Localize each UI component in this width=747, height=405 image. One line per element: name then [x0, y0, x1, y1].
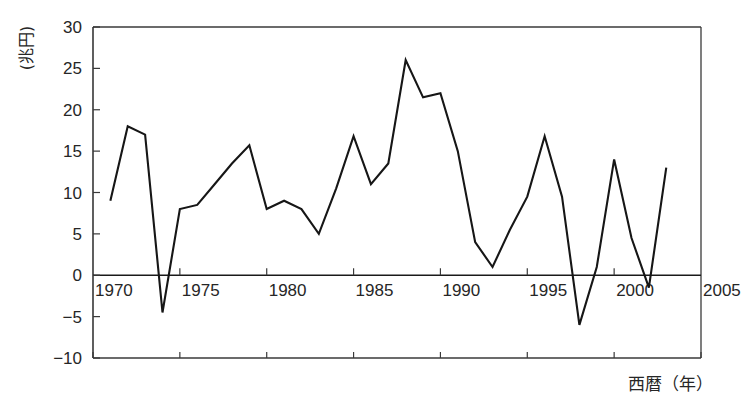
y-axis-tick-label: 25 [63, 59, 82, 78]
x-axis-tick-label: 2005 [703, 281, 741, 300]
x-axis-tick-label: 1980 [269, 281, 307, 300]
x-axis-label: 西暦（年） [628, 374, 713, 394]
x-axis-tick-label: 1970 [95, 281, 133, 300]
y-axis-tick-label: 15 [63, 142, 82, 161]
y-axis-tick-label: 30 [63, 18, 82, 37]
y-axis-tick-label: 5 [73, 225, 82, 244]
x-axis-tick-label: 1975 [182, 281, 220, 300]
x-axis-tick-label: 1990 [442, 281, 480, 300]
y-axis-tick-label: 0 [73, 266, 82, 285]
y-axis-tick-label: −5 [63, 308, 82, 327]
chart-container: 302520151050−5−1019701975198019851990199… [0, 0, 747, 405]
line-chart: 302520151050−5−1019701975198019851990199… [0, 0, 747, 405]
y-axis-tick-label: 20 [63, 101, 82, 120]
x-axis-tick-label: 1995 [529, 281, 567, 300]
y-axis-tick-label: −10 [53, 349, 82, 368]
x-axis-tick-label: 1985 [356, 281, 394, 300]
y-axis-label: (兆円) [17, 26, 36, 70]
y-axis-tick-label: 10 [63, 184, 82, 203]
